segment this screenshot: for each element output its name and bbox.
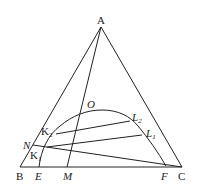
tie-line-k2l2 xyxy=(56,121,130,134)
label-k2: K2 xyxy=(41,125,53,139)
label-l2: L2 xyxy=(131,111,142,125)
tie-line-k1l1 xyxy=(47,135,142,147)
side-ab xyxy=(20,27,101,167)
line-am xyxy=(67,27,101,167)
label-f: F xyxy=(160,170,168,182)
label-a: A xyxy=(97,14,105,26)
label-b: B xyxy=(16,170,23,182)
label-l1: L1 xyxy=(145,127,156,141)
ternary-diagram: A B C E M F N O K1 K2 L1 L2 xyxy=(0,0,198,189)
label-o: O xyxy=(87,98,95,110)
label-c: C xyxy=(178,170,185,182)
label-k1: K1 xyxy=(30,149,42,163)
label-e: E xyxy=(34,170,42,182)
side-ac xyxy=(101,27,182,167)
label-m: M xyxy=(62,170,73,182)
